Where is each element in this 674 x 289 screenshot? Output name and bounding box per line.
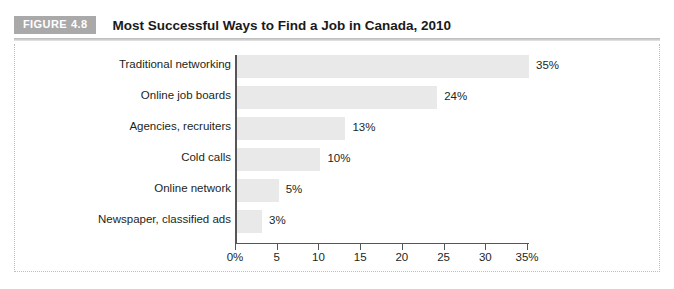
x-axis-tick-label: 5 xyxy=(274,251,280,263)
bar-category-label: Agencies, recruiters xyxy=(129,120,231,132)
bar-fill xyxy=(237,55,529,78)
x-axis-tick-label: 35% xyxy=(515,251,538,263)
bar-track xyxy=(237,86,437,109)
figure-title: Most Successful Ways to Find a Job in Ca… xyxy=(112,18,451,33)
x-axis-tick-label: 15 xyxy=(354,251,367,263)
x-axis-tick-mark xyxy=(360,244,361,250)
bar-fill xyxy=(237,86,437,109)
x-axis-tick-mark xyxy=(444,244,445,250)
bar-track xyxy=(237,55,529,78)
x-axis-tick-label: 25 xyxy=(437,251,450,263)
x-axis-tick-label: 20 xyxy=(395,251,408,263)
figure-badge-label: FIGURE xyxy=(23,18,67,30)
bar-track xyxy=(237,117,345,140)
figure-badge-number: 4.8 xyxy=(71,18,88,30)
bar-row: Online network5% xyxy=(0,179,674,202)
bar-row: Cold calls10% xyxy=(0,148,674,171)
title-divider-rule xyxy=(14,38,660,41)
figure-number-badge: FIGURE4.8 xyxy=(14,16,96,34)
bar-category-label: Online network xyxy=(154,182,231,194)
x-axis-tick-label: 10 xyxy=(312,251,325,263)
x-axis-tick-mark xyxy=(235,244,236,250)
bar-category-label: Traditional networking xyxy=(119,58,231,70)
bar-row: Traditional networking35% xyxy=(0,55,674,78)
bar-track xyxy=(237,148,320,171)
bar-value-label: 35% xyxy=(536,59,559,71)
bar-row: Newspaper, classified ads3% xyxy=(0,210,674,233)
bar-fill xyxy=(237,179,279,202)
figure-header: FIGURE4.8 Most Successful Ways to Find a… xyxy=(14,14,660,36)
bar-chart-plot-area: Traditional networking35%Online job boar… xyxy=(0,44,674,272)
bar-fill xyxy=(237,210,262,233)
bar-row: Online job boards24% xyxy=(0,86,674,109)
bar-value-label: 5% xyxy=(286,183,303,195)
x-axis-tick-mark xyxy=(485,244,486,250)
bar-category-label: Cold calls xyxy=(181,151,231,163)
x-axis-tick-mark xyxy=(277,244,278,250)
bar-row: Agencies, recruiters13% xyxy=(0,117,674,140)
bar-category-label: Newspaper, classified ads xyxy=(98,213,231,225)
bar-value-label: 3% xyxy=(269,214,286,226)
bar-track xyxy=(237,179,279,202)
figure-container: FIGURE4.8 Most Successful Ways to Find a… xyxy=(0,0,674,289)
bar-fill xyxy=(237,148,320,171)
bar-category-label: Online job boards xyxy=(141,89,231,101)
bar-value-label: 13% xyxy=(352,121,375,133)
x-axis-tick-mark xyxy=(527,244,528,250)
x-axis-tick-mark xyxy=(318,244,319,250)
bar-track xyxy=(237,210,262,233)
x-axis-tick-label: 0% xyxy=(227,251,244,263)
bar-fill xyxy=(237,117,345,140)
x-axis-tick-mark xyxy=(402,244,403,250)
bar-value-label: 24% xyxy=(444,90,467,102)
x-axis-tick-label: 30 xyxy=(479,251,492,263)
bar-value-label: 10% xyxy=(327,152,350,164)
